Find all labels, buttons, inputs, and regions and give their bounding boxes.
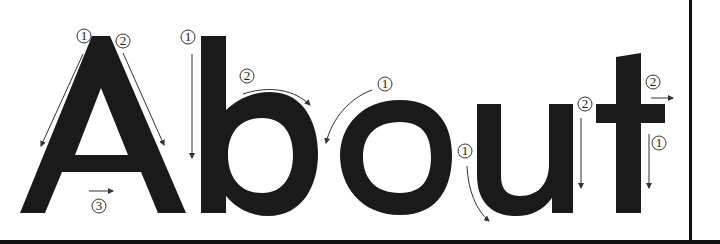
svg-text:1: 1 — [656, 135, 663, 150]
svg-text:2: 2 — [120, 33, 127, 48]
letter-o — [340, 100, 452, 215]
letter-a — [20, 36, 186, 213]
svg-text:1: 1 — [382, 76, 389, 91]
svg-text:1: 1 — [81, 28, 88, 43]
letter-b — [201, 36, 318, 216]
svg-text:1: 1 — [185, 29, 192, 44]
letter-u — [477, 104, 573, 216]
diagram-canvas: 1 2 3 1 2 1 1 2 2 1 — [0, 0, 720, 244]
svg-text:2: 2 — [650, 74, 657, 89]
svg-text:3: 3 — [96, 198, 103, 213]
svg-text:2: 2 — [582, 96, 589, 111]
svg-text:1: 1 — [462, 143, 469, 158]
stroke-order-diagram: 1 2 3 1 2 1 1 2 2 1 — [0, 0, 720, 244]
svg-text:2: 2 — [244, 68, 251, 83]
